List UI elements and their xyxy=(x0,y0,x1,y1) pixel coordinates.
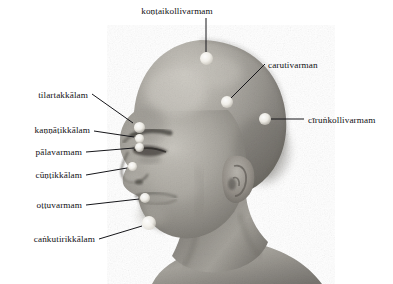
leader-line-ottuvarmam xyxy=(86,199,139,205)
leader-line-carutivarman xyxy=(231,64,265,98)
leader-line-tilartakkalam xyxy=(92,94,133,123)
varmam-head-diagram: koṇṭaikollivarmamcarutivarmancīruṅkolliv… xyxy=(0,0,393,284)
leader-line-kannatikkalam xyxy=(94,131,134,137)
label-kontaikollivarmam: koṇṭaikollivarmam xyxy=(0,7,354,16)
label-cuntikkalam: cūṇṭikkālam xyxy=(0,171,82,180)
leader-line-cankutirikkalam xyxy=(99,226,142,239)
label-palavarmam: pālavarmam xyxy=(0,148,82,157)
leader-line-cuntikkalam xyxy=(86,168,127,175)
label-carutivarman: carutivarman xyxy=(268,61,318,70)
label-ottuvarmam: oṭṭuvarmam xyxy=(0,201,82,210)
label-kannatikkalam: kaṇṇāṭikkālam xyxy=(0,126,90,135)
label-tilartakkalam: tilartakkālam xyxy=(0,91,88,100)
label-cankutirikkalam: caṅkutirikkālam xyxy=(0,235,95,244)
label-cirunkollivarmam: cīruṅkollivarmam xyxy=(308,116,375,125)
leader-line-palavarmam xyxy=(86,148,134,152)
